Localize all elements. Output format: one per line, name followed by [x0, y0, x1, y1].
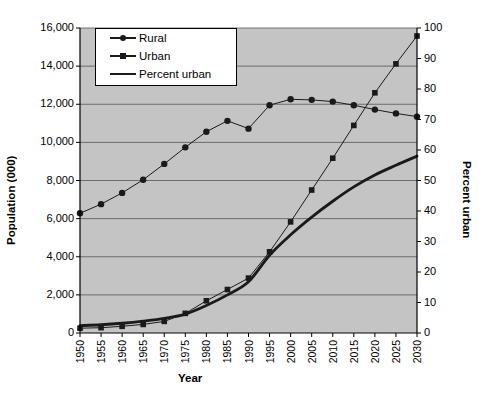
y-tick-label: 6,000: [26, 212, 74, 224]
y2-tick-label: 90: [424, 52, 458, 64]
x-tick-label: 1960: [116, 340, 128, 363]
y2-tick-label: 0: [424, 326, 458, 338]
y-tick-label: 14,000: [26, 59, 74, 71]
y2-tick-label: 80: [424, 82, 458, 94]
x-tick-label: 1970: [158, 340, 170, 363]
y-tick-label: 12,000: [26, 97, 74, 109]
y-tick-label: 10,000: [26, 135, 74, 147]
y-tick-label: 8,000: [26, 174, 74, 186]
x-tick-label: 2015: [348, 340, 360, 363]
data-point: [182, 144, 188, 150]
percent-urban-line-icon: [110, 69, 136, 79]
y2-tick-label: 10: [424, 296, 458, 308]
legend: Rural Urban Percent urban: [95, 28, 237, 86]
x-tick-label: 2020: [369, 340, 381, 363]
data-point: [224, 118, 230, 124]
data-point: [309, 187, 315, 193]
x-tick-label: 1975: [179, 340, 191, 363]
data-point: [204, 298, 210, 304]
x-tick-label: 1955: [95, 340, 107, 363]
data-point: [287, 96, 293, 102]
data-point: [393, 110, 399, 116]
x-tick-label: 2010: [327, 340, 339, 363]
x-tick-label: 1950: [74, 340, 86, 363]
y2-tick-label: 100: [424, 21, 458, 33]
x-tick-label: 2025: [390, 340, 402, 363]
data-point: [330, 155, 336, 161]
data-point: [330, 98, 336, 104]
plot-area: [0, 0, 496, 397]
x-tick-label: 1995: [264, 340, 276, 363]
data-point: [266, 102, 272, 108]
data-point: [225, 287, 231, 293]
x-tick-label: 1985: [221, 340, 233, 363]
data-point: [288, 219, 294, 225]
data-point: [161, 161, 167, 167]
data-point: [308, 97, 314, 103]
legend-item-urban: Urban: [96, 47, 236, 65]
data-point: [351, 102, 357, 108]
y2-tick-label: 20: [424, 265, 458, 277]
data-point: [98, 201, 104, 207]
data-point: [351, 123, 357, 129]
data-point: [372, 106, 378, 112]
rural-line-marker-icon: [110, 33, 136, 43]
legend-label-urban: Urban: [139, 50, 170, 62]
data-point: [140, 177, 146, 183]
data-point: [203, 129, 209, 135]
legend-label-percent-urban: Percent urban: [139, 68, 211, 80]
x-tick-label: 2005: [306, 340, 318, 363]
y2-tick-label: 50: [424, 174, 458, 186]
y2-tick-label: 40: [424, 204, 458, 216]
data-point: [119, 190, 125, 196]
y2-tick-label: 30: [424, 235, 458, 247]
data-point: [372, 90, 378, 96]
data-point: [393, 61, 399, 67]
x-tick-label: 1990: [243, 340, 255, 363]
x-tick-label: 1965: [137, 340, 149, 363]
data-point: [245, 125, 251, 131]
y2-tick-label: 70: [424, 113, 458, 125]
legend-item-percent-urban: Percent urban: [96, 65, 236, 83]
y-tick-label: 0: [26, 326, 74, 338]
urban-line-marker-icon: [110, 51, 136, 61]
legend-item-rural: Rural: [96, 29, 236, 47]
y-tick-label: 16,000: [26, 21, 74, 33]
y-tick-label: 2,000: [26, 288, 74, 300]
x-tick-label: 1980: [200, 340, 212, 363]
y-tick-label: 4,000: [26, 250, 74, 262]
chart-container: Population (000) Percent urban Year 02,0…: [0, 0, 496, 397]
x-tick-label: 2000: [285, 340, 297, 363]
legend-label-rural: Rural: [139, 32, 166, 44]
x-tick-label: 2030: [411, 340, 423, 363]
y2-tick-label: 60: [424, 143, 458, 155]
